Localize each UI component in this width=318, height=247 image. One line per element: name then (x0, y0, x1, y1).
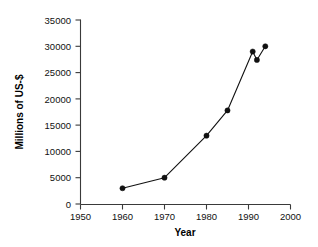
data-markers (120, 44, 268, 191)
line-chart: 35000 30000 25000 20000 15000 10000 5000… (0, 0, 318, 247)
y-tick-label-20000: 20000 (45, 94, 71, 105)
x-tick-label-1980: 1980 (196, 211, 217, 222)
y-tick-label-30000: 30000 (45, 41, 71, 52)
x-tick-label-1960: 1960 (112, 211, 133, 222)
data-series-line (123, 46, 266, 188)
x-tick-label-1950: 1950 (70, 211, 91, 222)
data-point (120, 186, 125, 191)
y-tick-label-35000: 35000 (45, 15, 71, 26)
x-tick-label-2000: 2000 (280, 211, 301, 222)
x-tick-label-1990: 1990 (238, 211, 259, 222)
y-tick-label-15000: 15000 (45, 120, 71, 131)
x-tick-label-1970: 1970 (154, 211, 175, 222)
data-point (162, 175, 167, 180)
data-point (204, 133, 209, 138)
x-axis-title: Year (174, 227, 195, 238)
y-axis-title: Millions of US-$ (14, 74, 25, 149)
data-point (254, 57, 259, 62)
y-axis-group: 35000 30000 25000 20000 15000 10000 5000… (14, 15, 81, 210)
data-series-group (120, 44, 268, 191)
y-tick-label-0: 0 (66, 199, 71, 210)
y-tick-label-25000: 25000 (45, 67, 71, 78)
data-point (250, 49, 255, 54)
data-point (263, 44, 268, 49)
y-tick-label-10000: 10000 (45, 146, 71, 157)
chart-figure: 35000 30000 25000 20000 15000 10000 5000… (0, 0, 318, 247)
x-axis-group: 1950 1960 1970 1980 1990 2000 Year (70, 205, 301, 239)
y-tick-label-5000: 5000 (50, 172, 71, 183)
data-point (225, 108, 230, 113)
